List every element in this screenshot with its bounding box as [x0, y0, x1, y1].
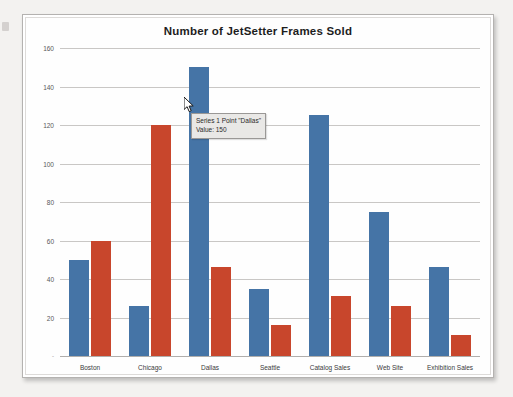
page-background: Number of JetSetter Frames Sold -2040608… — [0, 0, 513, 397]
bar-series2[interactable] — [151, 125, 171, 356]
tooltip-line-value: Value: 150 — [196, 125, 261, 134]
bar-group: Exhibition Sales — [420, 48, 480, 356]
scan-edge-artifact — [2, 22, 9, 31]
tooltip-line-series: Series 1 Point "Dallas" — [196, 116, 261, 125]
y-axis-tick-label: 140 — [43, 83, 54, 90]
bar-group: Chicago — [120, 48, 180, 356]
y-axis-tick-label: 100 — [43, 160, 54, 167]
bar-series2[interactable] — [331, 296, 351, 356]
x-axis-category-label: Web Site — [377, 364, 403, 371]
chart-plot-frame: Number of JetSetter Frames Sold -2040608… — [25, 17, 491, 375]
x-axis-category-label: Dallas — [201, 364, 219, 371]
chart-card: Number of JetSetter Frames Sold -2040608… — [22, 14, 494, 378]
bar-series1[interactable] — [369, 212, 389, 356]
bar-series1[interactable] — [429, 267, 449, 356]
x-axis-category-label: Catalog Sales — [310, 364, 350, 371]
bar-series2[interactable] — [271, 325, 291, 356]
bar-series2[interactable] — [451, 335, 471, 356]
bar-series1[interactable] — [69, 260, 89, 356]
data-point-tooltip: Series 1 Point "Dallas" Value: 150 — [191, 113, 266, 139]
mouse-cursor-icon — [184, 97, 195, 113]
bar-series1[interactable] — [249, 289, 269, 356]
x-axis-category-label: Boston — [80, 364, 100, 371]
y-axis-tick-label: 60 — [47, 237, 54, 244]
plot-area: -20406080100120140160 BostonChicagoDalla… — [60, 48, 480, 356]
bar-series2[interactable] — [91, 241, 111, 357]
gridline — [60, 356, 480, 357]
bar-group: Boston — [60, 48, 120, 356]
y-axis-tick-label: 160 — [43, 45, 54, 52]
bar-group: Web Site — [360, 48, 420, 356]
y-axis-tick-label: 40 — [47, 276, 54, 283]
y-axis-tick-label: - — [52, 353, 54, 359]
y-axis-tick-label: 80 — [47, 199, 54, 206]
y-axis-tick-label: 20 — [47, 314, 54, 321]
bar-series2[interactable] — [391, 306, 411, 356]
bar-series1[interactable] — [129, 306, 149, 356]
x-axis-category-label: Chicago — [138, 364, 162, 371]
bar-group: Seattle — [240, 48, 300, 356]
bar-group: Catalog Sales — [300, 48, 360, 356]
chart-title: Number of JetSetter Frames Sold — [26, 25, 490, 37]
x-axis-category-label: Exhibition Sales — [427, 364, 473, 371]
bar-group: Dallas — [180, 48, 240, 356]
x-axis-category-label: Seattle — [260, 364, 280, 371]
bar-series1[interactable] — [309, 115, 329, 356]
bar-series2[interactable] — [211, 267, 231, 356]
bar-series-container: BostonChicagoDallasSeattleCatalog SalesW… — [60, 48, 480, 356]
y-axis-tick-label: 120 — [43, 122, 54, 129]
